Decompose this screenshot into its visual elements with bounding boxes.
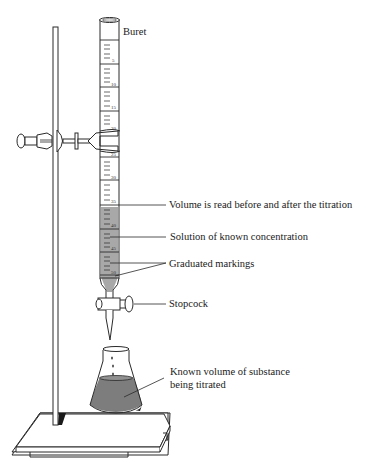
scale-number: 45	[111, 246, 116, 251]
scale-number: 40	[111, 223, 116, 228]
scale-number: 5	[112, 58, 115, 63]
buret	[100, 18, 120, 299]
label-graduated-markings: Graduated markings	[169, 258, 254, 270]
scale-number: 25	[111, 152, 116, 157]
stopcock	[96, 296, 133, 340]
label-buret: Buret	[123, 26, 146, 38]
label-solution: Solution of known concentration	[170, 231, 308, 243]
label-stopcock: Stopcock	[169, 298, 208, 310]
titration-diagram: 5 10 15 20 25 30 35 40 45 50 Buret Volum…	[0, 0, 377, 461]
label-flask-line2: being titrated	[170, 379, 226, 391]
label-flask-line1: Known volume of substance	[170, 366, 290, 378]
erlenmeyer-flask	[90, 347, 142, 414]
scale-number: 15	[111, 105, 116, 110]
ring-stand-base	[12, 413, 170, 457]
scale-number: 20	[111, 126, 116, 131]
scale-number: 30	[111, 175, 116, 180]
scale-number: 50	[111, 270, 116, 275]
scale-number: 10	[111, 82, 116, 87]
scale-number: 35	[111, 199, 116, 204]
ring-stand-rod	[53, 27, 66, 425]
label-volume-read: Volume is read before and after the titr…	[169, 199, 352, 211]
buret-clamp	[17, 130, 120, 153]
